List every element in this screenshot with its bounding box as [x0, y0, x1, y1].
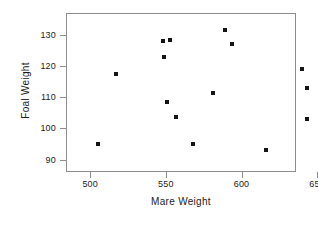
y-axis-tick — [60, 128, 66, 129]
x-axis-tick-label: 600 — [222, 179, 262, 189]
y-axis-tick — [60, 35, 66, 36]
scatter-plot-figure: 90100110120130500550600650 Mare Weight F… — [0, 0, 318, 225]
y-axis-title: Foal Weight — [20, 41, 31, 141]
x-axis-tick — [166, 172, 167, 178]
x-axis-tick — [242, 172, 243, 178]
x-axis-tick-label: 650 — [297, 179, 318, 189]
plot-area-frame — [66, 13, 296, 172]
y-axis-tick-label: 130 — [16, 30, 56, 40]
x-axis-title: Mare Weight — [66, 196, 296, 207]
x-axis-tick-label: 500 — [70, 179, 110, 189]
x-axis-tick — [90, 172, 91, 178]
data-point — [300, 67, 304, 71]
data-point — [305, 86, 309, 90]
y-axis-tick — [60, 97, 66, 98]
y-axis-tick — [60, 160, 66, 161]
x-axis-tick — [317, 172, 318, 178]
y-axis-tick-label: 90 — [16, 155, 56, 165]
y-axis-tick — [60, 66, 66, 67]
data-point — [305, 117, 309, 121]
x-axis-tick-label: 550 — [146, 179, 186, 189]
